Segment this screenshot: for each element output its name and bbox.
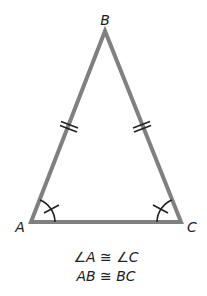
vertex-label-b: B bbox=[100, 12, 110, 28]
vertex-label-a: A bbox=[14, 219, 25, 235]
angle-mark-a bbox=[40, 200, 59, 222]
side-congruence-statement: AB ≅ BC bbox=[0, 268, 207, 284]
angle-mark-c bbox=[153, 200, 172, 222]
triangle-abc bbox=[31, 31, 181, 222]
vertex-label-c: C bbox=[187, 219, 197, 235]
angle-congruence-statement: ∠A ≅ ∠C bbox=[0, 249, 207, 265]
